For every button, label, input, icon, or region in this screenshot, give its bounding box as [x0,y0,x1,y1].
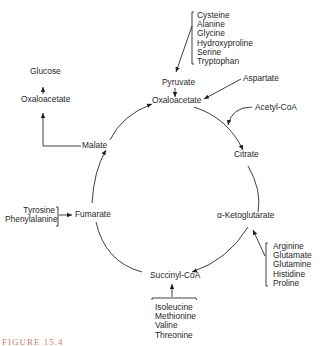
arc-citrate-akg [248,166,259,212]
list-akg-sources: Arginine Glutamate Glutamine Histidine P… [273,242,312,288]
amino-acid: Phenylalanine [5,215,55,224]
diagram-lines [0,0,322,346]
amino-acid: Threonine [155,331,196,340]
arrow-malate-oxaloacetate-left [43,113,81,146]
node-succinyl-coa: Succinyl-CoA [150,271,200,280]
arc-oxaloacetate-citrate [194,107,243,150]
arrow-acetylcoa [228,107,252,125]
arrow-to-akg [253,230,265,256]
arc-malate-oxaloacetate [110,104,152,140]
list-fumarate-sources: Tyrosine Phenylalanine [5,206,55,224]
node-malate: Malate [82,141,107,150]
node-fumarate: Fumarate [75,210,111,219]
arc-akg-succinyl [192,227,248,272]
arrow-aspartate [204,79,241,99]
node-citrate: Citrate [234,150,259,159]
node-glucose: Glucose [30,67,61,76]
arc-fumarate-malate [92,150,106,203]
citric-acid-cycle-diagram: Oxaloacetate Citrate α-Ketoglutarate Suc… [0,0,322,346]
bracket-pyruvate [192,12,194,64]
bracket-succinyl [152,298,197,300]
node-acetyl-coa: Acetyl-CoA [255,103,297,112]
amino-acid: Tryptophan [197,57,253,66]
node-pyruvate: Pyruvate [162,78,195,87]
amino-acid: Proline [273,279,312,288]
bracket-akg [266,243,268,286]
node-oxaloacetate-gluconeogenesis: Oxaloacetate [21,95,70,104]
node-alpha-ketoglutarate: α-Ketoglutarate [217,211,274,220]
node-oxaloacetate: Oxaloacetate [152,96,201,105]
arrow-to-pyruvate [176,26,192,72]
arc-succinyl-fumarate [96,222,142,272]
node-aspartate: Aspartate [243,74,279,83]
list-succinyl-sources: Isoleucine Methionine Valine Threonine [155,303,196,340]
list-pyruvate-sources: Cysteine Alanine Glycine Hydroxyproline … [197,11,253,66]
figure-caption: FIGURE 15.4 [2,337,64,346]
